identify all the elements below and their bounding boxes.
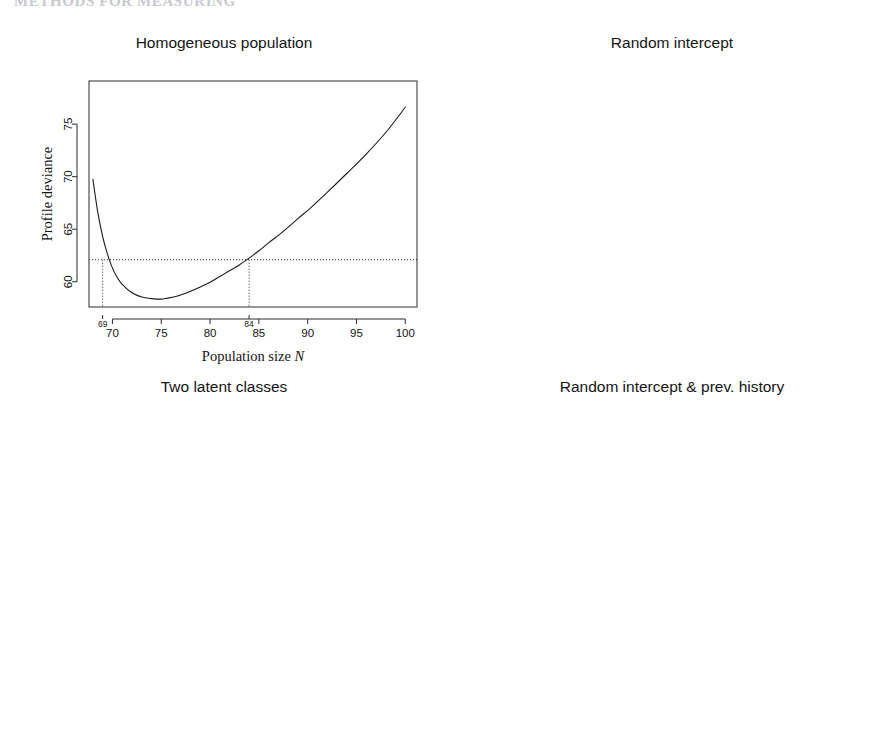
y-axis-tick-label: 65 xyxy=(62,223,74,236)
plot-root: 60657075Profile deviance707580859095100P… xyxy=(39,81,417,364)
x-axis-tick-label: 100 xyxy=(396,327,415,339)
x-axis-tick-label: 95 xyxy=(350,327,363,339)
panel-homogeneous-population: Homogeneous population 60657075Profile d… xyxy=(0,0,448,370)
confidence-limit-label: 69 xyxy=(98,319,108,329)
panel-random-intercept: Random intercept 55606570Profile devianc… xyxy=(448,0,896,370)
plot-homogeneous-population: 60657075Profile deviance707580859095100P… xyxy=(0,0,448,370)
y-axis-tick-label: 75 xyxy=(62,118,74,131)
y-axis-tick-label: 60 xyxy=(62,275,74,288)
confidence-limit-label: 84 xyxy=(244,319,254,329)
profile-deviance-curve xyxy=(93,107,405,299)
x-axis-title-text: Population size xyxy=(202,348,295,364)
panel-two-latent-classes: Two latent classes 48505254565860Profile… xyxy=(0,370,448,740)
y-axis-tick-label: 70 xyxy=(62,170,74,183)
x-axis-tick-label: 80 xyxy=(204,327,217,339)
plot-frame xyxy=(89,81,417,307)
plot-random-intercept-prev-history: 48495051525354Profile deviance7080901001… xyxy=(448,370,896,740)
x-axis-tick-label: 70 xyxy=(106,327,119,339)
figure-page: METHODS FOR MEASURING Homogeneous popula… xyxy=(0,0,896,741)
x-axis-title-variable: N xyxy=(293,348,305,364)
plot-random-intercept: 55606570Profile deviance80100120140160Po… xyxy=(448,0,896,370)
x-axis-title: Population size N xyxy=(202,348,306,364)
y-axis-title: Profile deviance xyxy=(39,147,55,242)
panel-random-intercept-prev-history: Random intercept & prev. history 4849505… xyxy=(448,370,896,740)
x-axis-tick-label: 85 xyxy=(252,327,265,339)
x-axis-tick-label: 90 xyxy=(301,327,314,339)
plot-two-latent-classes: 48505254565860Profile deviance708090100P… xyxy=(0,370,448,740)
x-axis-tick-label: 75 xyxy=(155,327,168,339)
